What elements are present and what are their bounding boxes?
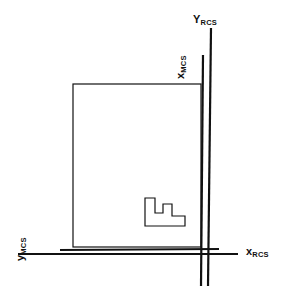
axis-label-y-mcs-base: y <box>14 255 26 261</box>
mcs-horizontal-axis <box>60 249 219 250</box>
axis-label-y-mcs-subscript: MCS <box>19 237 28 254</box>
workpiece-rectangle <box>73 84 201 247</box>
diagram-canvas <box>0 0 290 305</box>
axis-label-y-rcs-base: Y <box>193 13 201 25</box>
axis-label-x-rcs: xRCS <box>246 246 269 257</box>
axis-label-y-rcs: YRCS <box>193 14 217 25</box>
axis-label-x-mcs: xMCS <box>175 55 186 79</box>
axis-label-x-mcs-base: x <box>174 73 186 79</box>
axis-label-x-mcs-subscript: MCS <box>179 55 188 72</box>
coordinate-system-diagram: YRCS xMCS yMCS xRCS <box>0 0 290 305</box>
axis-label-x-rcs-subscript: RCS <box>252 250 268 259</box>
axis-label-y-rcs-subscript: RCS <box>201 18 217 27</box>
rcs-vertical-axis <box>208 28 211 286</box>
axis-label-y-mcs: yMCS <box>15 237 26 261</box>
step-feature-polygon <box>145 198 185 226</box>
